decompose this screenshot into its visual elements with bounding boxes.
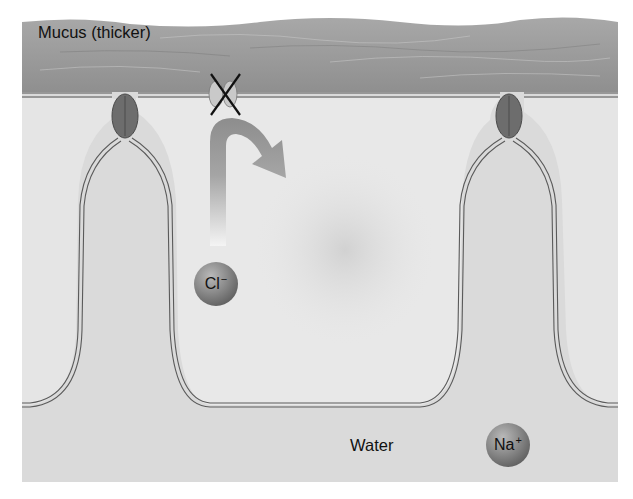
chloride-ion: Cl−	[194, 262, 238, 306]
chloride-charge: −	[221, 273, 227, 285]
sodium-charge: +	[516, 434, 522, 446]
tight-junction-right	[496, 94, 522, 138]
water-label: Water	[350, 436, 393, 455]
chloride-symbol: Cl	[205, 275, 220, 293]
sodium-symbol: Na	[494, 436, 514, 454]
tight-junction-left	[112, 94, 138, 138]
sodium-ion: Na+	[486, 423, 530, 467]
cystic-fibrosis-diagram: Mucus (thicker) Water Cl− Na+	[0, 0, 633, 499]
water-accumulation	[255, 155, 435, 345]
mucus-label: Mucus (thicker)	[38, 23, 151, 42]
diagram-canvas	[0, 0, 633, 499]
